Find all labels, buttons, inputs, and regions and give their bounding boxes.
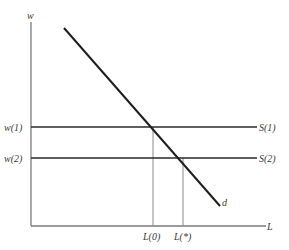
quantity-label-l0: L(0) [142,231,161,243]
wage-label-w2: w(2) [4,153,23,165]
demand-label: d [222,197,228,208]
y-axis-label: w [27,10,34,21]
x-axis-label: L [266,221,273,232]
supply-label-s1: S(1) [259,122,276,134]
labor-market-diagram: w L w(1) w(2) S(1) S(2) d L(0) L(*) [0,0,289,250]
supply-label-s2: S(2) [259,153,276,165]
wage-label-w1: w(1) [4,122,23,134]
quantity-label-lstar: L(*) [173,231,192,243]
demand-line [64,28,220,206]
